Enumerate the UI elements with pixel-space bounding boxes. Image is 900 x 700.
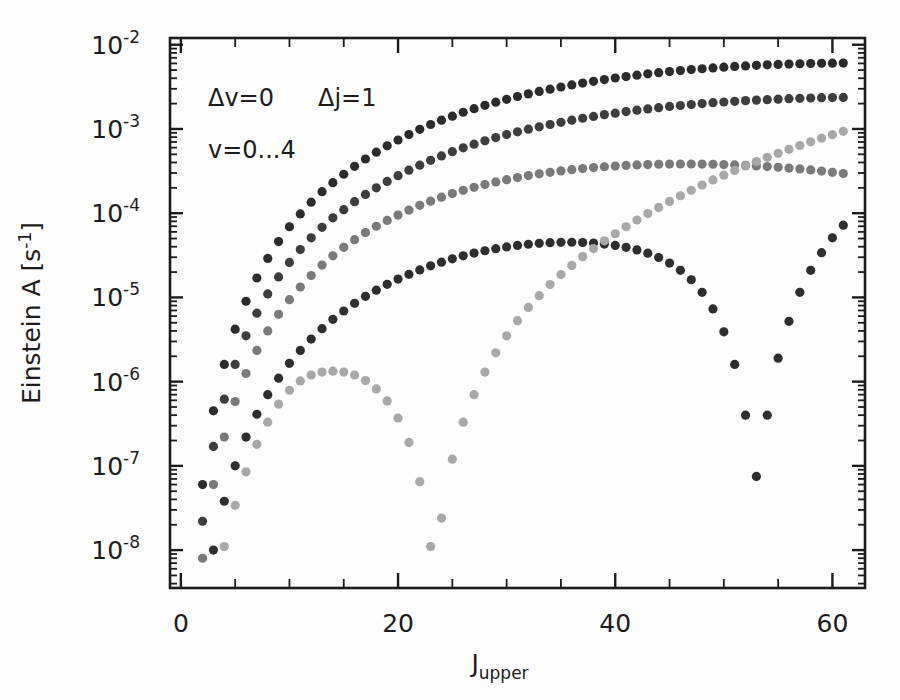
y-tick-label-text: 10-3 [91,111,140,144]
data-point [600,75,609,84]
data-point [220,432,229,441]
data-point [350,299,359,308]
data-point [676,159,685,168]
data-point [274,310,283,319]
data-point [328,367,337,376]
data-point [274,374,283,383]
y-tick-exponent: -2 [123,27,140,47]
annotation-delta-v: Δv=0 [208,84,274,112]
data-point [719,97,728,106]
data-point [252,410,261,419]
data-point [643,69,652,78]
data-point [437,151,446,160]
data-point [426,156,435,165]
x-tick-label: 0 [173,609,189,638]
data-point [513,241,522,250]
y-tick-mantissa: 10 [91,536,123,565]
data-point [708,160,717,169]
data-point [469,248,478,257]
data-point [469,104,478,113]
data-point [491,348,500,357]
data-point [339,306,348,315]
data-point [589,163,598,172]
data-point [632,71,641,80]
data-point [361,190,370,199]
data-point [448,147,457,156]
data-point [491,133,500,142]
data-point [545,238,554,247]
data-point [502,175,511,184]
data-point [687,65,696,74]
y-tick-exponent: -6 [123,364,140,384]
data-point [839,93,848,102]
data-point [611,109,620,118]
data-point [654,253,663,262]
data-point [491,177,500,186]
data-point [774,95,783,104]
data-point [252,346,261,355]
data-point [621,161,630,170]
data-point [209,545,218,554]
data-point [687,159,696,168]
y-tick-label: 10-6 [91,364,140,397]
data-point [611,229,620,238]
svg-text:Jupper: Jupper [469,649,528,683]
data-point [708,98,717,107]
data-point [426,120,435,129]
data-point [231,360,240,369]
y-axis-tick-labels: 10-210-310-410-510-610-710-8 [91,27,140,565]
x-axis-title-subscript: upper [479,663,529,683]
data-point [621,243,630,252]
data-point [231,325,240,334]
data-point [795,94,804,103]
annotation-delta-j: Δj=1 [318,84,376,112]
data-point [556,82,565,91]
data-point [784,94,793,103]
data-point [415,265,424,274]
data-point [589,77,598,86]
data-point [415,477,424,486]
data-point [393,135,402,144]
data-point [676,191,685,200]
data-point [361,292,370,301]
data-point [763,95,772,104]
data-point [524,171,533,180]
data-point [209,480,218,489]
data-point [730,166,739,175]
data-point [545,168,554,177]
data-point [307,271,316,280]
data-point [372,183,381,192]
data-point [665,197,674,206]
data-point [296,209,305,218]
einstein-a-coefficient-plot: 10-210-310-410-510-610-710-8 0204060 Ein… [0,0,900,700]
y-tick-exponent: -5 [123,279,140,299]
data-point [383,141,392,150]
data-point [393,171,402,180]
data-points-layer [198,59,848,563]
y-tick-label: 10-2 [91,27,140,60]
data-point [393,275,402,284]
y-tick-label-text: 10-7 [91,448,140,481]
data-point [502,95,511,104]
data-point [296,346,305,355]
data-point [774,60,783,69]
data-point [839,59,848,68]
data-point [383,216,392,225]
data-point [698,64,707,73]
data-point [784,59,793,68]
data-point [621,72,630,81]
data-point [372,384,381,393]
y-tick-label-text: 10-2 [91,27,140,60]
data-point [339,367,348,376]
data-point [795,141,804,150]
plot-annotations: Δv=0 Δj=1 v=0...4 [208,84,376,164]
data-point [567,261,576,270]
data-point [328,251,337,260]
data-point [480,101,489,110]
data-point [665,159,674,168]
data-point [241,297,250,306]
data-point [241,467,250,476]
data-point [632,245,641,254]
data-point [241,331,250,340]
data-point [285,258,294,267]
